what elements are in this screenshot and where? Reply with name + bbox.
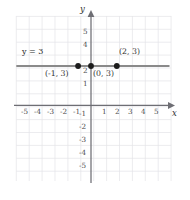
coordinate-plane-figure: y x y = 3 (-1, 3) (0, 3) (2, 3) -5 -4 -3… xyxy=(0,0,190,200)
point-2-3 xyxy=(114,63,120,69)
x-axis-label: x xyxy=(172,109,177,118)
x-tick-4: 4 xyxy=(141,108,146,115)
y-tick-5: 5 xyxy=(83,28,88,35)
y-tick-4: 4 xyxy=(83,41,88,48)
x-tick-neg4: -4 xyxy=(34,108,41,115)
y-tick-neg4: -4 xyxy=(79,149,86,156)
y-axis-label: y xyxy=(80,5,85,14)
y-tick-neg2: -2 xyxy=(79,123,86,130)
x-tick-neg2: -2 xyxy=(60,108,67,115)
x-tick-2: 2 xyxy=(115,108,120,115)
x-tick-neg3: -3 xyxy=(47,108,54,115)
graph-canvas xyxy=(0,0,190,200)
x-tick-neg5: -5 xyxy=(21,108,28,115)
y-tick-neg5: -5 xyxy=(79,162,86,169)
y-tick-1: 1 xyxy=(83,80,88,87)
y-tick-neg1: -1 xyxy=(79,110,86,117)
point-neg1-3 xyxy=(75,63,81,69)
point-label-neg1-3: (-1, 3) xyxy=(45,70,69,78)
x-tick-3: 3 xyxy=(128,108,133,115)
y-tick-2: 2 xyxy=(83,67,88,74)
grid-vertical-lines xyxy=(16,16,171,181)
x-tick-5: 5 xyxy=(154,108,159,115)
point-label-2-3: (2, 3) xyxy=(119,48,140,56)
x-tick-1: 1 xyxy=(102,108,107,115)
y-tick-neg3: -3 xyxy=(79,136,86,143)
point-label-0-3: (0, 3) xyxy=(93,70,114,78)
equation-label: y = 3 xyxy=(22,48,43,56)
